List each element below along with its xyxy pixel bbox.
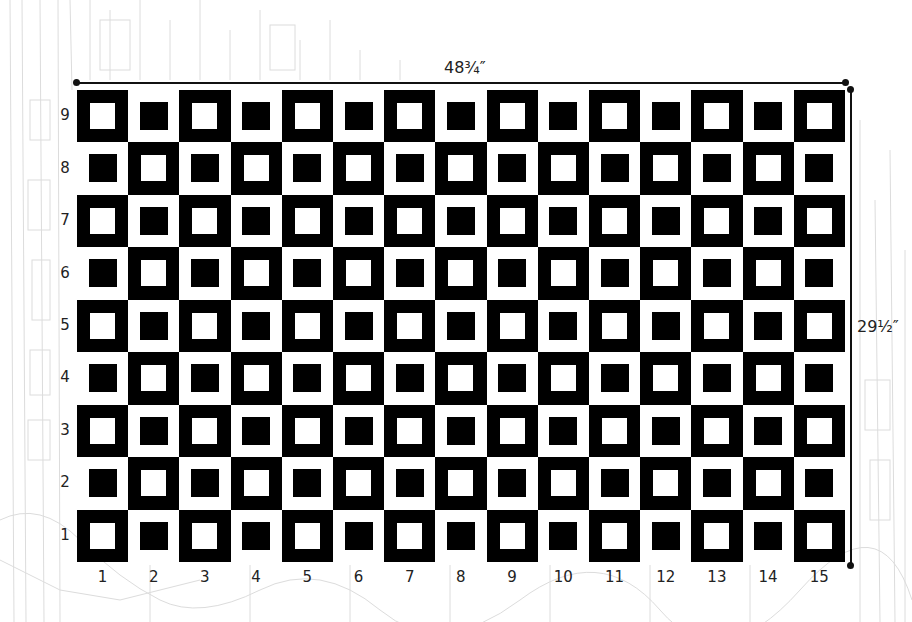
- white-center-square: [500, 313, 525, 339]
- block-black-frame: [231, 457, 282, 509]
- black-center-square: [345, 207, 373, 235]
- block-black-frame: [640, 142, 691, 194]
- block-white-frame: [231, 405, 282, 457]
- width-dimension-line: [77, 82, 845, 84]
- block-white-frame: [589, 352, 640, 404]
- white-center-square: [295, 208, 320, 234]
- white-center-square: [192, 418, 217, 444]
- black-center-square: [89, 364, 117, 392]
- block-black-frame: [231, 247, 282, 299]
- block-black-frame: [743, 457, 794, 509]
- black-center-square: [754, 207, 782, 235]
- block-white-frame: [691, 457, 742, 509]
- block-black-frame: [487, 195, 538, 247]
- block-white-frame: [691, 142, 742, 194]
- block-white-frame: [179, 142, 230, 194]
- black-center-square: [293, 259, 321, 287]
- height-dimension-start-dot: [847, 86, 854, 93]
- block-black-frame: [691, 300, 742, 352]
- black-center-square: [293, 364, 321, 392]
- block-black-frame: [743, 247, 794, 299]
- white-center-square: [551, 260, 576, 286]
- white-center-square: [551, 155, 576, 181]
- column-label: 15: [794, 568, 845, 586]
- black-center-square: [652, 312, 680, 340]
- white-center-square: [244, 365, 269, 391]
- white-center-square: [90, 418, 115, 444]
- block-white-frame: [538, 510, 589, 562]
- white-center-square: [192, 523, 217, 549]
- white-center-square: [500, 208, 525, 234]
- white-center-square: [448, 155, 473, 181]
- black-center-square: [549, 207, 577, 235]
- block-white-frame: [743, 90, 794, 142]
- block-black-frame: [282, 300, 333, 352]
- block-white-frame: [589, 142, 640, 194]
- block-black-frame: [179, 90, 230, 142]
- white-center-square: [704, 523, 729, 549]
- white-center-square: [295, 418, 320, 444]
- white-center-square: [500, 418, 525, 444]
- block-black-frame: [435, 352, 486, 404]
- block-white-frame: [128, 510, 179, 562]
- block-black-frame: [794, 405, 845, 457]
- white-center-square: [602, 523, 627, 549]
- black-center-square: [140, 102, 168, 130]
- black-center-square: [754, 417, 782, 445]
- white-center-square: [346, 260, 371, 286]
- black-center-square: [191, 364, 219, 392]
- column-label: 9: [487, 568, 538, 586]
- width-dimension-label: 48¾″: [444, 58, 486, 77]
- block-white-frame: [384, 142, 435, 194]
- block-black-frame: [691, 405, 742, 457]
- block-white-frame: [282, 352, 333, 404]
- block-white-frame: [589, 247, 640, 299]
- block-white-frame: [333, 510, 384, 562]
- block-black-frame: [179, 300, 230, 352]
- block-black-frame: [128, 142, 179, 194]
- block-white-frame: [743, 300, 794, 352]
- block-white-frame: [538, 300, 589, 352]
- block-white-frame: [231, 510, 282, 562]
- block-black-frame: [691, 195, 742, 247]
- white-center-square: [295, 313, 320, 339]
- black-center-square: [805, 154, 833, 182]
- white-center-square: [397, 313, 422, 339]
- row-label: 3: [58, 421, 72, 439]
- black-center-square: [601, 154, 629, 182]
- white-center-square: [90, 523, 115, 549]
- block-black-frame: [282, 510, 333, 562]
- block-black-frame: [179, 405, 230, 457]
- block-white-frame: [435, 405, 486, 457]
- black-center-square: [242, 102, 270, 130]
- block-white-frame: [231, 300, 282, 352]
- white-center-square: [807, 208, 832, 234]
- block-white-frame: [487, 142, 538, 194]
- block-white-frame: [128, 300, 179, 352]
- white-center-square: [397, 418, 422, 444]
- white-center-square: [90, 103, 115, 129]
- row-label: 8: [58, 159, 72, 177]
- black-center-square: [498, 154, 526, 182]
- height-dimension-end-dot: [847, 562, 854, 569]
- block-white-frame: [640, 405, 691, 457]
- white-center-square: [346, 470, 371, 496]
- block-black-frame: [794, 510, 845, 562]
- column-label: 10: [538, 568, 589, 586]
- column-label: 3: [179, 568, 230, 586]
- row-label: 4: [58, 368, 72, 386]
- black-center-square: [601, 259, 629, 287]
- block-white-frame: [794, 142, 845, 194]
- block-white-frame: [128, 405, 179, 457]
- block-black-frame: [589, 510, 640, 562]
- block-black-frame: [794, 195, 845, 247]
- block-white-frame: [435, 510, 486, 562]
- black-center-square: [191, 259, 219, 287]
- block-white-frame: [231, 90, 282, 142]
- column-label: 14: [743, 568, 794, 586]
- black-center-square: [703, 154, 731, 182]
- block-white-frame: [743, 510, 794, 562]
- white-center-square: [551, 470, 576, 496]
- row-label: 5: [58, 316, 72, 334]
- white-center-square: [90, 313, 115, 339]
